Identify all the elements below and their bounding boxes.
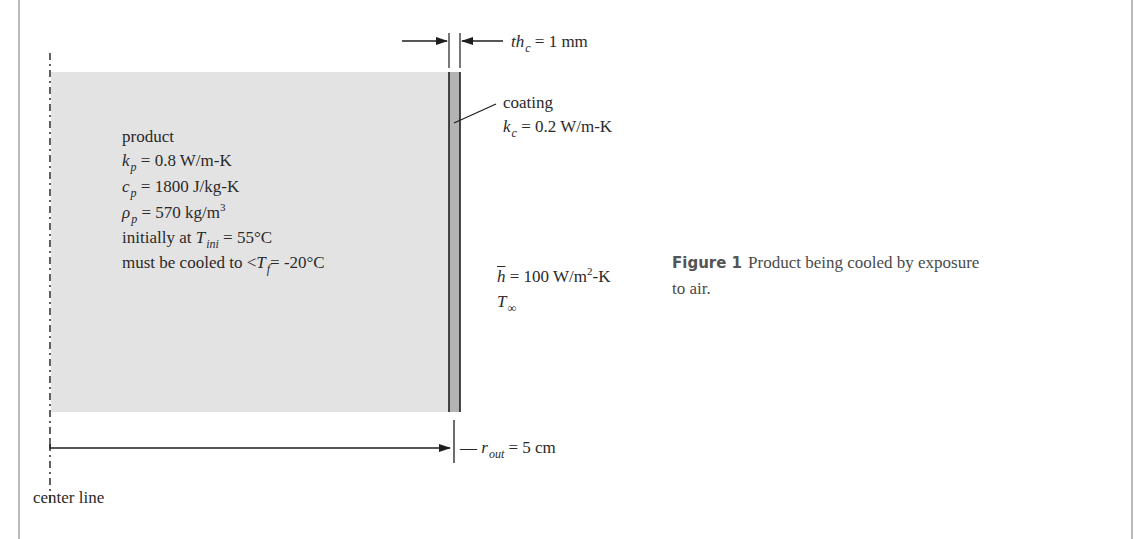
caption-line-2: to air. — [672, 279, 711, 298]
kc-value: = 0.2 W/m-K — [521, 117, 612, 136]
kp-value: = 0.8 W/m-K — [141, 151, 232, 170]
coating-thickness-label: thc = 1 mm — [511, 33, 588, 50]
kc-symbol: k — [503, 117, 511, 136]
kp-symbol: k — [122, 151, 130, 170]
h-value: = 100 W/m — [510, 267, 587, 286]
h-bar-symbol: h — [497, 267, 506, 286]
cp-subscript: p — [131, 186, 137, 200]
rout-symbol: r — [481, 438, 488, 457]
product-property-cp: cp = 1800 J/kg-K — [122, 178, 239, 195]
product-initial-temp: initially at Tini = 55°C — [122, 229, 272, 246]
tinf-subscript: ∞ — [507, 301, 516, 315]
rout-subscript: out — [489, 447, 504, 461]
cp-symbol: c — [122, 177, 130, 196]
ambient-temperature: T∞ — [497, 293, 516, 310]
h-superscript: 2 — [587, 265, 593, 277]
thickness-symbol: th — [511, 32, 524, 51]
outer-radius-label: — rout = 5 cm — [460, 439, 556, 456]
rho-symbol: ρ — [122, 203, 130, 222]
radius-leader-dash: — — [460, 438, 477, 457]
product-label: product — [122, 128, 174, 145]
tinf-symbol: T — [497, 292, 506, 311]
thickness-subscript: c — [525, 41, 530, 55]
product-property-rho: ρp = 570 kg/m3 — [122, 204, 225, 221]
tini-value: = 55°C — [223, 228, 272, 247]
rho-superscript: 3 — [220, 201, 226, 213]
cp-value: = 1800 J/kg-K — [141, 177, 239, 196]
caption-line-1: Product being cooled by exposure — [748, 253, 979, 272]
rho-subscript: p — [131, 212, 137, 226]
tf-value: = -20°C — [270, 253, 325, 272]
rout-value: = 5 cm — [508, 438, 555, 457]
convection-coefficient: h = 100 W/m2-K — [497, 268, 610, 285]
product-target-temp: must be cooled to <Tf= -20°C — [122, 254, 325, 271]
product-property-kp: kp = 0.8 W/m-K — [122, 152, 232, 169]
figure-caption: Figure 1Product being cooled by exposure… — [672, 250, 1062, 301]
kp-subscript: p — [131, 160, 137, 174]
coating-label: coating — [503, 94, 553, 111]
figure-label: Figure 1 — [672, 254, 742, 272]
tini-symbol: T — [196, 228, 205, 247]
tini-subscript: ini — [206, 237, 219, 251]
target-prefix: must be cooled to < — [122, 253, 256, 272]
tf-symbol: T — [256, 253, 265, 272]
rho-value: = 570 kg/m — [141, 203, 220, 222]
center-line-label: center line — [33, 489, 104, 506]
tf-subscript: f — [267, 262, 270, 276]
radius-arrow — [50, 440, 450, 448]
thickness-value: = 1 mm — [535, 32, 588, 51]
initial-prefix: initially at — [122, 228, 196, 247]
h-suffix: -K — [593, 267, 611, 286]
kc-subscript: c — [512, 126, 517, 140]
coating-conductivity: kc = 0.2 W/m-K — [503, 118, 612, 135]
